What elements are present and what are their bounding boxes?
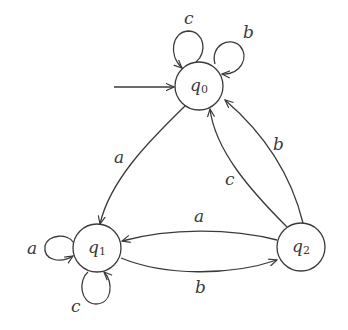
edge-q2-q0-c (210, 109, 287, 227)
edge-q0-q1 (100, 106, 185, 224)
label-q1-loop-c: c (71, 296, 81, 316)
label-q1-q2: b (195, 277, 206, 297)
edge-q2-q0-b (225, 100, 303, 223)
label-q2-q1: a (194, 206, 204, 226)
edge-q2-q1 (122, 231, 277, 241)
label-q0-q1: a (114, 147, 124, 167)
automaton-diagram: q0 q1 q2 c b a c b a b a c (0, 0, 348, 330)
loop-q1-c (82, 272, 110, 304)
label-q2-q0-b: b (273, 134, 284, 154)
label-q2-q0-c: c (225, 169, 235, 189)
label-q1-loop-a: a (27, 238, 37, 258)
edge-q1-q2 (121, 258, 277, 272)
loop-q0-b (214, 42, 244, 74)
label-q0-loop-c: c (184, 8, 194, 28)
loop-q1-a (45, 236, 74, 260)
label-q0-loop-b: b (243, 22, 254, 42)
